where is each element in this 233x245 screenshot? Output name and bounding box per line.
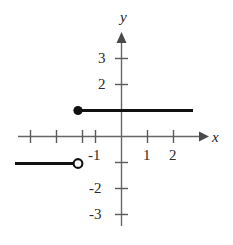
coordinate-plane — [0, 0, 233, 245]
x-axis-label: x — [212, 130, 219, 145]
closed-endpoint-marker — [73, 106, 82, 115]
y-tick-label-2: 2 — [98, 77, 106, 92]
graph-figure: y x 3 2 -2 -3 -1 1 2 — [0, 0, 233, 245]
y-axis — [117, 32, 127, 226]
y-tick-label-minus-3: -3 — [89, 207, 102, 222]
function-branch-upper — [73, 106, 193, 115]
function-branch-lower — [15, 159, 82, 168]
x-tick-label-2: 2 — [169, 148, 177, 163]
y-tick-label-minus-2: -2 — [89, 181, 102, 196]
x-tick-label-minus-1: -1 — [88, 148, 101, 163]
y-axis-label: y — [120, 10, 127, 25]
x-axis — [18, 132, 209, 142]
y-tick-label-3: 3 — [98, 51, 106, 66]
x-tick-label-1: 1 — [143, 148, 151, 163]
open-endpoint-marker — [74, 159, 83, 168]
